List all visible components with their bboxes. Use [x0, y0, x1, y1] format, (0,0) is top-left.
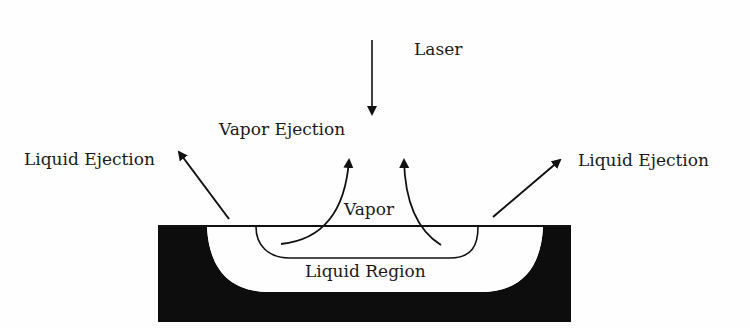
vapor-label: Vapor — [344, 199, 394, 219]
liquid-ejection-arrow-right — [493, 160, 560, 217]
vapor-ejection-label: Vapor Ejection — [219, 119, 345, 139]
laser-label: Laser — [414, 39, 462, 59]
liquid-ejection-arrow-left — [179, 152, 229, 219]
liquid-ejection-left-label: Liquid Ejection — [24, 149, 155, 169]
diagram-canvas: Laser Vapor Ejection Liquid Ejection Liq… — [0, 0, 750, 329]
liquid-ejection-right-label: Liquid Ejection — [578, 150, 709, 170]
liquid-region-label: Liquid Region — [305, 261, 426, 281]
